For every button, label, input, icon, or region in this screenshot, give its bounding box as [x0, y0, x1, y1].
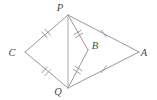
- geometry-canvas: P C A Q B: [0, 0, 157, 100]
- tick-marks-pa: [101, 30, 106, 37]
- vertex-label-p: P: [56, 2, 64, 13]
- vertex-label-c: C: [8, 47, 16, 58]
- tick-marks-cq: [42, 67, 51, 76]
- geometry-figure: P C A Q B: [0, 0, 157, 100]
- segment-cp: [25, 15, 68, 52]
- vertex-label-a: A: [140, 47, 148, 58]
- vertex-label-b: B: [92, 40, 99, 51]
- segment-cq: [25, 52, 68, 88]
- vertex-label-q: Q: [54, 86, 62, 97]
- segment-bq: [68, 50, 88, 88]
